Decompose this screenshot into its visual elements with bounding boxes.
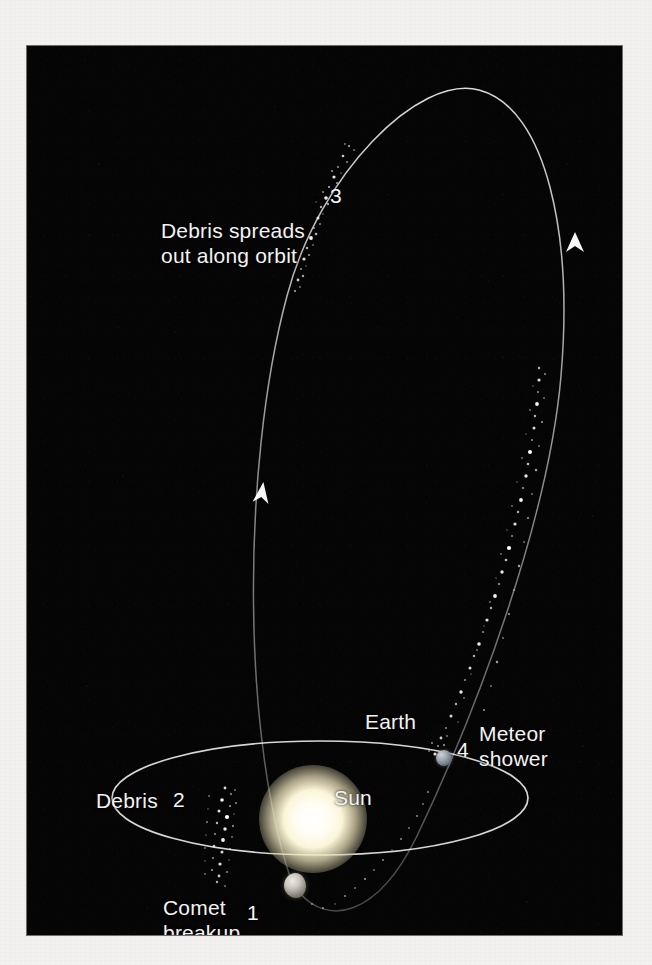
label-sun: Sun (334, 785, 372, 810)
page-background: Debris spreads out along orbit 3 Debris … (0, 0, 652, 965)
earth-body (436, 750, 452, 766)
label-debris-spreads-out-along-orbit: Debris spreads out along orbit (161, 218, 305, 268)
comet-nucleus-body (284, 873, 306, 898)
label-debris: Debris (96, 788, 158, 813)
marker-number-3: 3 (330, 185, 342, 206)
marker-number-1: 1 (247, 902, 259, 923)
marker-number-4: 4 (457, 739, 469, 760)
label-meteor-shower: Meteor shower (479, 721, 548, 771)
astronomy-diagram-panel: Debris spreads out along orbit 3 Debris … (27, 46, 622, 935)
label-earth: Earth (365, 709, 416, 734)
orbit-direction-arrow-right (566, 232, 584, 252)
label-comet-breakup: Comet breakup (163, 895, 240, 935)
marker-number-2: 2 (173, 789, 185, 810)
orbit-direction-arrow-left (253, 481, 272, 504)
sun-body (259, 765, 367, 873)
